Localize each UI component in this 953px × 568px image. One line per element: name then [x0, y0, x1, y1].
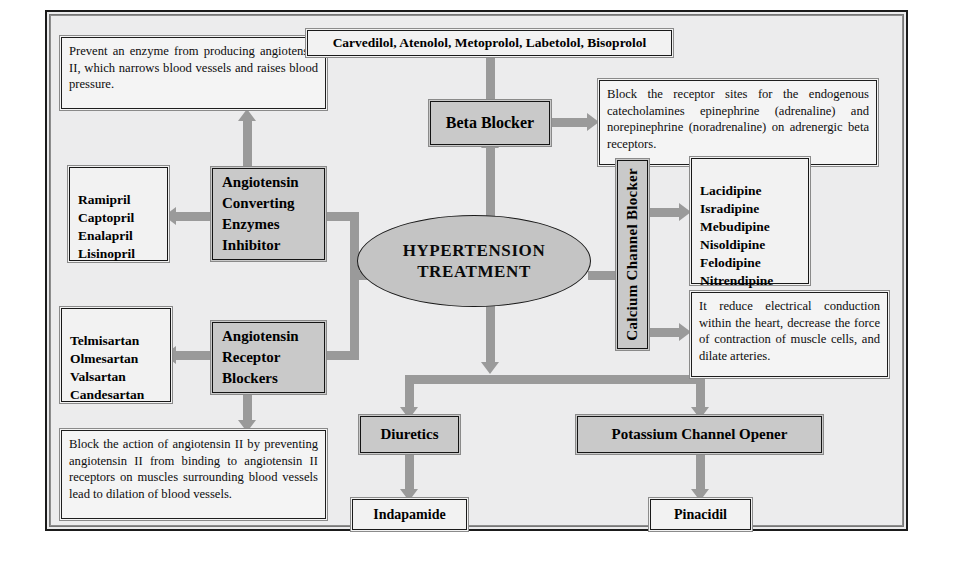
category-diuretics-label: Diuretics — [380, 426, 438, 443]
connector-ccb-to-desc — [647, 328, 680, 337]
arrowhead-ccb-to-desc — [679, 323, 691, 341]
connector-ccb-to-drugs — [647, 208, 680, 217]
pco-drug-pinacidil: Pinacidil — [650, 499, 751, 530]
category-potassium-channel-opener[interactable]: Potassium Channel Opener — [577, 416, 822, 453]
hub-hypertension-treatment[interactable]: HYPERTENSION TREATMENT — [357, 215, 591, 307]
diuretics-drug-indapamide: Indapamide — [352, 499, 467, 530]
connector-diuretics-to-indapamide — [405, 453, 414, 490]
calcium-channel-blocker-drug-list: Lacidipine Isradipine Mebudipine Nisoldi… — [691, 158, 809, 284]
connector-pco-to-pinacidil — [696, 453, 705, 490]
ace-inhibitor-description: Prevent an enzyme from producing angiote… — [61, 37, 326, 109]
connector-arb-to-drugs — [176, 351, 210, 360]
diuretics-drug-indapamide-text: Indapamide — [373, 507, 445, 523]
ace-inhibitor-description-text: Prevent an enzyme from producing angiote… — [69, 44, 318, 91]
connector-ace-to-desc — [243, 120, 252, 168]
calcium-channel-blocker-description-text: It reduce electrical conduction within t… — [699, 299, 880, 363]
connector-beta-to-desc — [550, 118, 588, 127]
beta-blocker-drug-list: Carvedilol, Atenolol, Metoprolol, Labeto… — [307, 30, 672, 56]
category-calcium-channel-blocker[interactable]: Calcium Channel Blocker — [617, 160, 648, 349]
connector-arb-to-desc — [243, 393, 252, 421]
diagram-frame: Prevent an enzyme from producing angiote… — [45, 10, 908, 531]
hub-label: HYPERTENSION TREATMENT — [403, 240, 546, 282]
pco-drug-pinacidil-text: Pinacidil — [674, 507, 727, 523]
beta-blocker-drug-list-text: Carvedilol, Atenolol, Metoprolol, Labeto… — [333, 35, 647, 51]
category-beta-blocker-label: Beta Blocker — [446, 114, 534, 132]
category-beta-blocker[interactable]: Beta Blocker — [430, 101, 550, 145]
ace-inhibitor-drug-list: Ramipril Captopril Enalapril Lisinopril — [69, 167, 168, 261]
calcium-channel-blocker-description: It reduce electrical conduction within t… — [691, 292, 888, 377]
connector-left-bus-vertical — [350, 212, 359, 360]
connector-to-diuretics — [405, 375, 414, 408]
ace-inhibitor-drug-list-text: Ramipril Captopril Enalapril Lisinopril — [78, 192, 135, 261]
arrowhead-ccb-to-drugs — [679, 203, 691, 221]
connector-bottom-distributor — [405, 375, 705, 384]
beta-blocker-description-text: Block the receptor sites for the endogen… — [607, 87, 869, 151]
arb-description-text: Block the action of angiotensin II by pr… — [69, 437, 318, 501]
connector-to-pco — [696, 375, 705, 408]
arrowhead-ace-to-desc — [238, 109, 256, 121]
arb-drug-list: Telmisartan Olmesartan Valsartan Candesa… — [61, 308, 171, 402]
arrowhead-beta-to-desc — [587, 113, 599, 131]
connector-hub-down-stem — [486, 305, 495, 363]
diagram-canvas: Prevent an enzyme from producing angiote… — [0, 0, 953, 568]
arb-drug-list-text: Telmisartan Olmesartan Valsartan Candesa… — [70, 333, 144, 402]
category-arb-label: Angiotensin Receptor Blockers — [222, 326, 299, 389]
calcium-channel-blocker-drug-list-text: Lacidipine Isradipine Mebudipine Nisoldi… — [700, 183, 773, 288]
category-potassium-channel-opener-label: Potassium Channel Opener — [612, 426, 788, 443]
category-arb[interactable]: Angiotensin Receptor Blockers — [212, 322, 325, 393]
category-diuretics[interactable]: Diuretics — [360, 416, 459, 453]
beta-blocker-description: Block the receptor sites for the endogen… — [599, 80, 877, 165]
connector-ace-to-drugs — [176, 212, 210, 221]
category-ace-inhibitor-label: Angiotensin Converting Enzymes Inhibitor — [222, 172, 299, 256]
arrowhead-hub-down-stem — [481, 362, 499, 374]
category-calcium-channel-blocker-label: Calcium Channel Blocker — [624, 168, 641, 341]
arb-description: Block the action of angiotensin II by pr… — [61, 430, 326, 519]
category-ace-inhibitor[interactable]: Angiotensin Converting Enzymes Inhibitor — [212, 168, 325, 260]
